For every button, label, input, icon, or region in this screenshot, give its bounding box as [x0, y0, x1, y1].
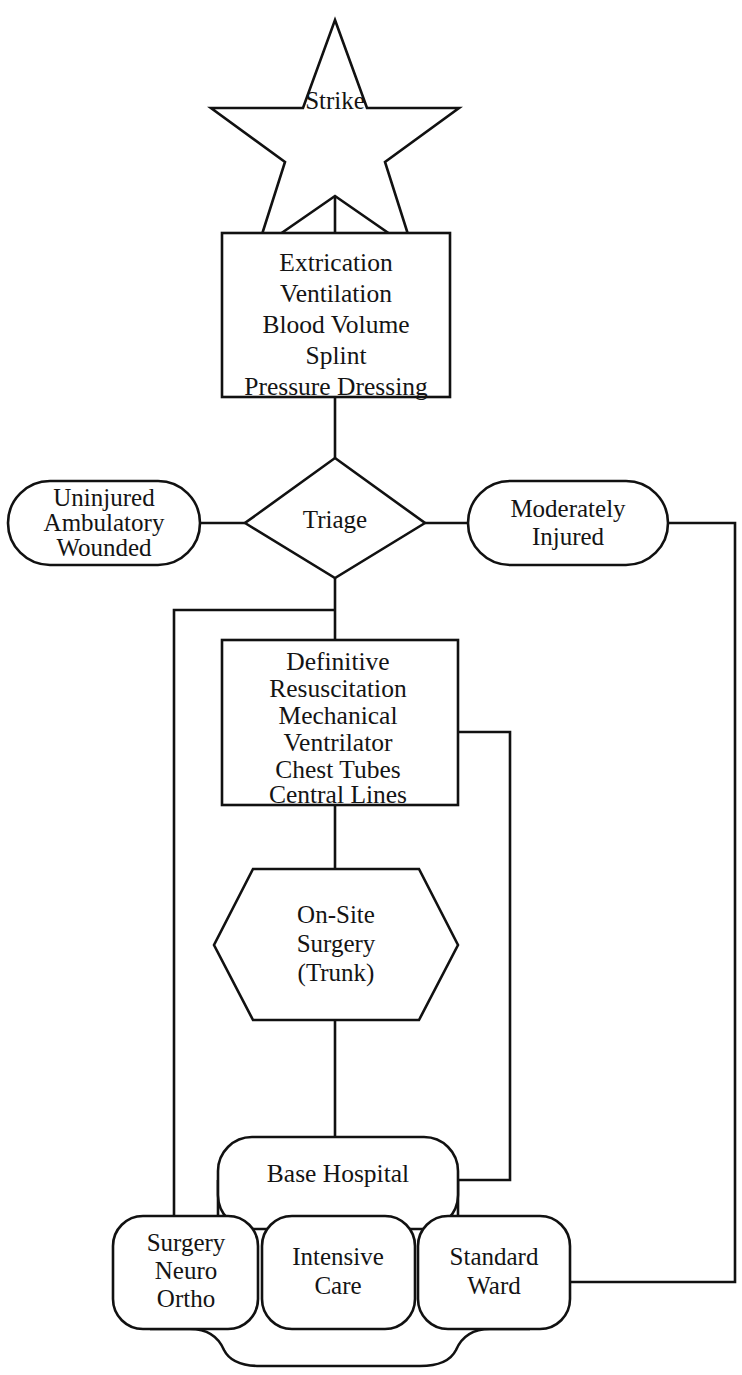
standard-ward-line-2: Ward [467, 1272, 521, 1299]
field-care-line-1: Extrication [279, 248, 393, 277]
on-site-surgery-line-1: On-Site [297, 901, 375, 928]
on-site-surgery-line-3: (Trunk) [298, 959, 375, 987]
moderately-injured-line-1: Moderately [510, 495, 626, 522]
definitive-line-6: Central Lines [269, 780, 407, 809]
surgery-unit-line-2: Neuro [155, 1257, 217, 1284]
edge-definitive-to-base-hospital [458, 732, 510, 1180]
surgery-unit-line-3: Ortho [157, 1285, 215, 1312]
intensive-care-line-2: Care [314, 1272, 361, 1299]
flowchart-canvas: Strike Extrication Ventilation Blood Vol… [0, 0, 742, 1375]
edge-surgery-unit-to-standard-ward-loop [150, 1329, 530, 1366]
definitive-line-1: Definitive [286, 647, 389, 676]
definitive-line-4: Ventrilator [283, 728, 393, 757]
standard-ward-line-1: Standard [450, 1243, 539, 1270]
definitive-line-3: Mechanical [279, 701, 398, 730]
surgery-unit-line-1: Surgery [147, 1229, 226, 1256]
on-site-surgery-line-2: Surgery [297, 930, 376, 957]
triage-label: Triage [303, 506, 367, 533]
field-care-line-5: Pressure Dressing [244, 372, 428, 401]
uninjured-line-3: Wounded [56, 534, 152, 561]
intensive-care-line-1: Intensive [292, 1243, 384, 1270]
strike-label: Strike [305, 87, 365, 114]
uninjured-line-2: Ambulatory [44, 509, 165, 536]
casualty-care-flowchart: Strike Extrication Ventilation Blood Vol… [0, 0, 742, 1375]
base-hospital-label: Base Hospital [267, 1159, 409, 1188]
uninjured-line-1: Uninjured [53, 484, 155, 511]
edge-moderately-injured-to-standard-ward [570, 523, 735, 1282]
field-care-line-2: Ventilation [280, 279, 392, 308]
field-care-line-4: Splint [306, 341, 367, 370]
definitive-line-2: Resuscitation [269, 674, 407, 703]
moderately-injured-line-2: Injured [532, 523, 605, 550]
field-care-line-3: Blood Volume [262, 310, 409, 339]
